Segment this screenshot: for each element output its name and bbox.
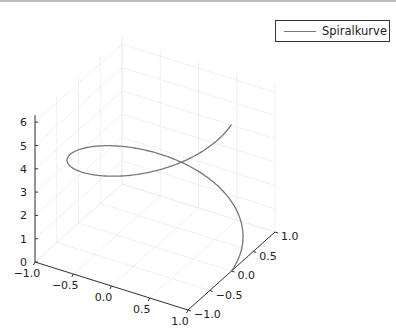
tick-label: −1.0	[14, 267, 41, 280]
tick-label: 5	[20, 140, 27, 153]
tick-label: −0.5	[216, 289, 243, 302]
tick-label: 4	[20, 163, 27, 176]
tick-label: 0.0	[95, 291, 113, 304]
tick-label: −0.5	[52, 279, 79, 292]
tick-label: 6	[20, 116, 27, 129]
tick-label: −1.0	[194, 308, 221, 321]
tick-label: 2	[20, 209, 27, 222]
legend-line-icon	[284, 31, 316, 32]
tick-label: 3	[20, 186, 27, 199]
spiral-curve	[67, 125, 243, 271]
legend: Spiralkurve	[275, 20, 390, 42]
tick-label: 1.0	[171, 315, 189, 328]
tick-label: 1	[20, 233, 27, 246]
tick-label: 0.5	[133, 303, 151, 316]
legend-label: Spiralkurve	[322, 24, 387, 38]
tick-label: 1.0	[281, 230, 299, 243]
tick-label: 0.0	[238, 269, 256, 282]
plot-area: −1.0−0.50.00.51.0−1.0−0.50.00.51.0012345…	[0, 0, 396, 335]
tick-label: 0.5	[259, 250, 277, 263]
tick-label: 0	[20, 256, 27, 269]
